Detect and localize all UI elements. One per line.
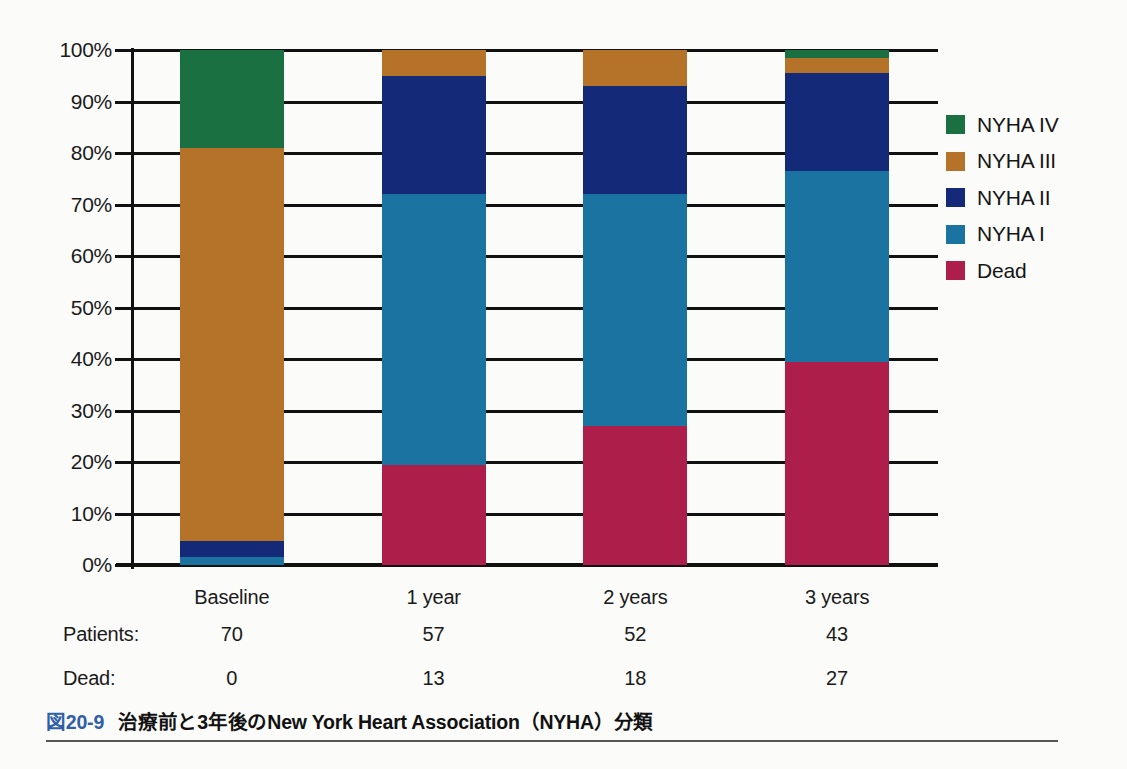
bar-segment-nyha-ii[interactable] (180, 541, 284, 557)
bar-3-years[interactable] (785, 50, 889, 565)
y-axis-tick-label: 50% (71, 296, 112, 320)
x-axis-label-1-year: 1 year (339, 586, 529, 609)
y-axis-tick-label: 40% (71, 347, 112, 371)
legend-color-swatch (946, 115, 965, 134)
bar-segment-nyha-iv[interactable] (180, 50, 284, 148)
y-axis-tick-label: 70% (71, 193, 112, 217)
legend-label: NYHA I (977, 222, 1045, 246)
y-axis-tick-label: 0% (82, 553, 112, 577)
bar-segment-dead[interactable] (583, 426, 687, 565)
y-axis-tick-mark (115, 49, 132, 52)
legend-color-swatch (946, 188, 965, 207)
table-cell: 0 (137, 667, 327, 690)
chart-legend: NYHA IVNYHA IIINYHA IINYHA IDead (946, 108, 1121, 291)
y-axis-tick-mark (115, 461, 132, 464)
caption-number: 図20-9 (46, 706, 104, 735)
stacked-bar-chart: 100%90%80%70%60%50%40%30%20%10%0% Baseli… (0, 0, 1127, 600)
table-cell: 27 (742, 667, 932, 690)
figure-nyha-classification: 100%90%80%70%60%50%40%30%20%10%0% Baseli… (0, 0, 1127, 769)
x-axis-label-3-years: 3 years (742, 586, 932, 609)
legend-item-nyha-iii[interactable]: NYHA III (946, 145, 1121, 178)
y-axis-tick-label: 80% (71, 141, 112, 165)
bar-segment-nyha-i[interactable] (382, 194, 486, 464)
y-axis-tick-label: 60% (71, 244, 112, 268)
y-axis-tick-mark (115, 358, 132, 361)
table-row-label: Dead: (63, 667, 115, 690)
bar-segment-dead[interactable] (785, 362, 889, 565)
y-axis-tick-mark (115, 410, 132, 413)
legend-label: NYHA III (977, 149, 1056, 173)
summary-table: Patients:70575243Dead:0131827 (0, 623, 960, 711)
y-axis-tick-mark (115, 152, 132, 155)
caption-text: 治療前と3年後のNew York Heart Association（NYHA）… (118, 706, 653, 735)
table-cell: 18 (540, 667, 730, 690)
x-axis-label-baseline: Baseline (137, 586, 327, 609)
table-row: Patients:70575243 (0, 623, 960, 667)
table-cell: 57 (339, 623, 529, 646)
table-row-label: Patients: (63, 623, 139, 646)
bar-segment-nyha-i[interactable] (180, 557, 284, 565)
legend-item-nyha-ii[interactable]: NYHA II (946, 181, 1121, 214)
legend-item-nyha-iv[interactable]: NYHA IV (946, 108, 1121, 141)
legend-color-swatch (946, 152, 965, 171)
table-row: Dead:0131827 (0, 667, 960, 711)
y-axis-tick-mark (115, 204, 132, 207)
bar-segment-dead[interactable] (382, 465, 486, 565)
bar-baseline[interactable] (180, 50, 284, 565)
legend-color-swatch (946, 261, 965, 280)
y-axis-tick-labels: 100%90%80%70%60%50%40%30%20%10%0% (0, 50, 112, 565)
figure-caption: 図20-9 治療前と3年後のNew York Heart Association… (46, 706, 1066, 742)
y-axis-tick-mark (115, 101, 132, 104)
legend-label: NYHA IV (977, 113, 1058, 137)
y-axis-tick-mark (115, 564, 132, 567)
bar-segment-nyha-iv[interactable] (785, 50, 889, 58)
y-axis-tick-mark (115, 513, 132, 516)
bar-2-years[interactable] (583, 50, 687, 565)
legend-label: Dead (977, 259, 1026, 283)
legend-color-swatch (946, 225, 965, 244)
plot-area (131, 50, 938, 565)
y-axis-tick-label: 20% (71, 450, 112, 474)
table-cell: 13 (339, 667, 529, 690)
table-cell: 52 (540, 623, 730, 646)
bar-segment-nyha-ii[interactable] (583, 86, 687, 194)
y-axis-tick-mark (115, 255, 132, 258)
y-axis-tick-label: 90% (71, 90, 112, 114)
bar-segment-nyha-ii[interactable] (382, 76, 486, 194)
bar-segment-nyha-i[interactable] (785, 171, 889, 362)
caption-divider (46, 740, 1058, 742)
bar-segment-nyha-iii[interactable] (583, 50, 687, 86)
legend-item-dead[interactable]: Dead (946, 254, 1121, 287)
bar-segment-nyha-iii[interactable] (180, 148, 284, 541)
bar-segment-nyha-iii[interactable] (785, 58, 889, 73)
table-cell: 43 (742, 623, 932, 646)
bar-1-year[interactable] (382, 50, 486, 565)
y-axis-tick-label: 100% (59, 38, 112, 62)
x-axis-label-2-years: 2 years (540, 586, 730, 609)
bar-segment-nyha-i[interactable] (583, 194, 687, 426)
y-axis-tick-label: 30% (71, 399, 112, 423)
y-axis-tick-mark (115, 307, 132, 310)
legend-label: NYHA II (977, 186, 1050, 210)
legend-item-nyha-i[interactable]: NYHA I (946, 218, 1121, 251)
table-cell: 70 (137, 623, 327, 646)
y-axis-tick-label: 10% (71, 502, 112, 526)
bar-segment-nyha-ii[interactable] (785, 73, 889, 171)
bar-segment-nyha-iii[interactable] (382, 50, 486, 76)
